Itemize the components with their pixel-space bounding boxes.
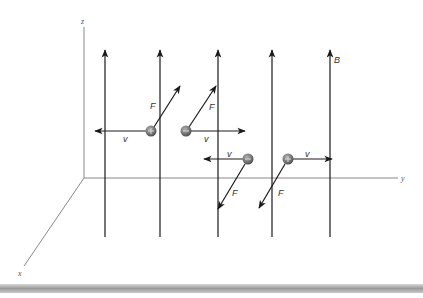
force-arrow-icon xyxy=(218,164,245,209)
particle-3-negative: v F xyxy=(204,149,254,209)
y-axis-label: y xyxy=(400,174,405,183)
force-label: F xyxy=(209,102,215,112)
velocity-label: v xyxy=(123,134,128,144)
particle-2-negative: v F xyxy=(181,86,246,144)
velocity-label: v xyxy=(204,134,209,144)
magnetic-field-lines xyxy=(105,50,330,237)
field-label-b: B xyxy=(334,55,340,65)
force-label: F xyxy=(232,188,238,198)
bottom-divider xyxy=(0,284,423,293)
force-arrow-icon xyxy=(154,86,180,127)
magnetic-force-diagram: z y x B v F v F v F xyxy=(0,0,423,298)
z-axis-label: z xyxy=(80,17,85,26)
velocity-label: v xyxy=(227,149,232,159)
x-axis-label: x xyxy=(17,269,22,278)
force-label: F xyxy=(150,101,156,111)
velocity-label: v xyxy=(305,149,310,159)
force-label: F xyxy=(278,188,284,198)
particle-1-positive: v F xyxy=(95,86,180,144)
x-axis xyxy=(24,178,84,266)
coordinate-axes: z y x xyxy=(17,17,405,278)
